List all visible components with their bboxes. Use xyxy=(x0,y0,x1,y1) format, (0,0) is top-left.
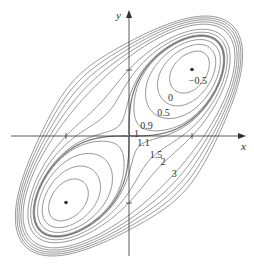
x-axis-label: x xyxy=(240,140,246,152)
contour-label: 0.9 xyxy=(140,120,153,131)
contour-label: −0.5 xyxy=(189,75,207,86)
contour-label: 3 xyxy=(172,168,177,179)
contour-label: 2 xyxy=(161,156,166,167)
contour-label: 0.5 xyxy=(157,107,170,118)
contour-label: 0 xyxy=(168,92,173,103)
contour-plot: x y −0.500.50.911.11.523 xyxy=(0,0,254,264)
y-axis-arrow-icon xyxy=(126,10,132,18)
critical-point-dot xyxy=(64,201,68,205)
y-axis-label: y xyxy=(115,9,121,21)
critical-point-dot xyxy=(190,68,194,72)
x-axis-arrow-icon xyxy=(238,133,246,139)
contour-level-labels: −0.500.50.911.11.523 xyxy=(134,75,207,179)
contour-label: 1.1 xyxy=(137,137,150,148)
